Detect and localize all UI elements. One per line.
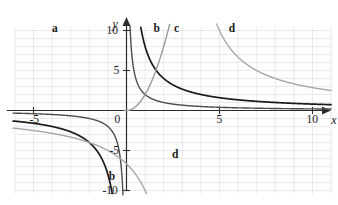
graph-figure: y x 10 5 0 -5 -10 -5 5 10 a b b c d d	[0, 0, 338, 205]
curve-label-b-bottom: b	[109, 171, 115, 183]
x-tick-label-minus-5: -5	[30, 114, 40, 126]
curve-paths	[13, 24, 331, 195]
plot-canvas	[0, 0, 338, 205]
y-tick-label-10: 10	[107, 25, 119, 37]
curve-label-b-top: b	[153, 23, 159, 35]
y-tick-label-5: 5	[114, 65, 120, 77]
x-axis-label: x	[331, 114, 336, 126]
curve-label-c: c	[174, 23, 179, 35]
x-tick-label-10: 10	[307, 114, 319, 126]
curve-label-d-top: d	[229, 23, 235, 35]
origin-label: 0	[115, 114, 121, 126]
y-tick-label-minus-5: -5	[110, 145, 120, 157]
curve-label-d-bottom: d	[172, 149, 178, 161]
x-tick-label-5: 5	[217, 114, 223, 126]
curve-label-a: a	[52, 23, 58, 35]
y-tick-label-minus-10: -10	[103, 185, 118, 197]
